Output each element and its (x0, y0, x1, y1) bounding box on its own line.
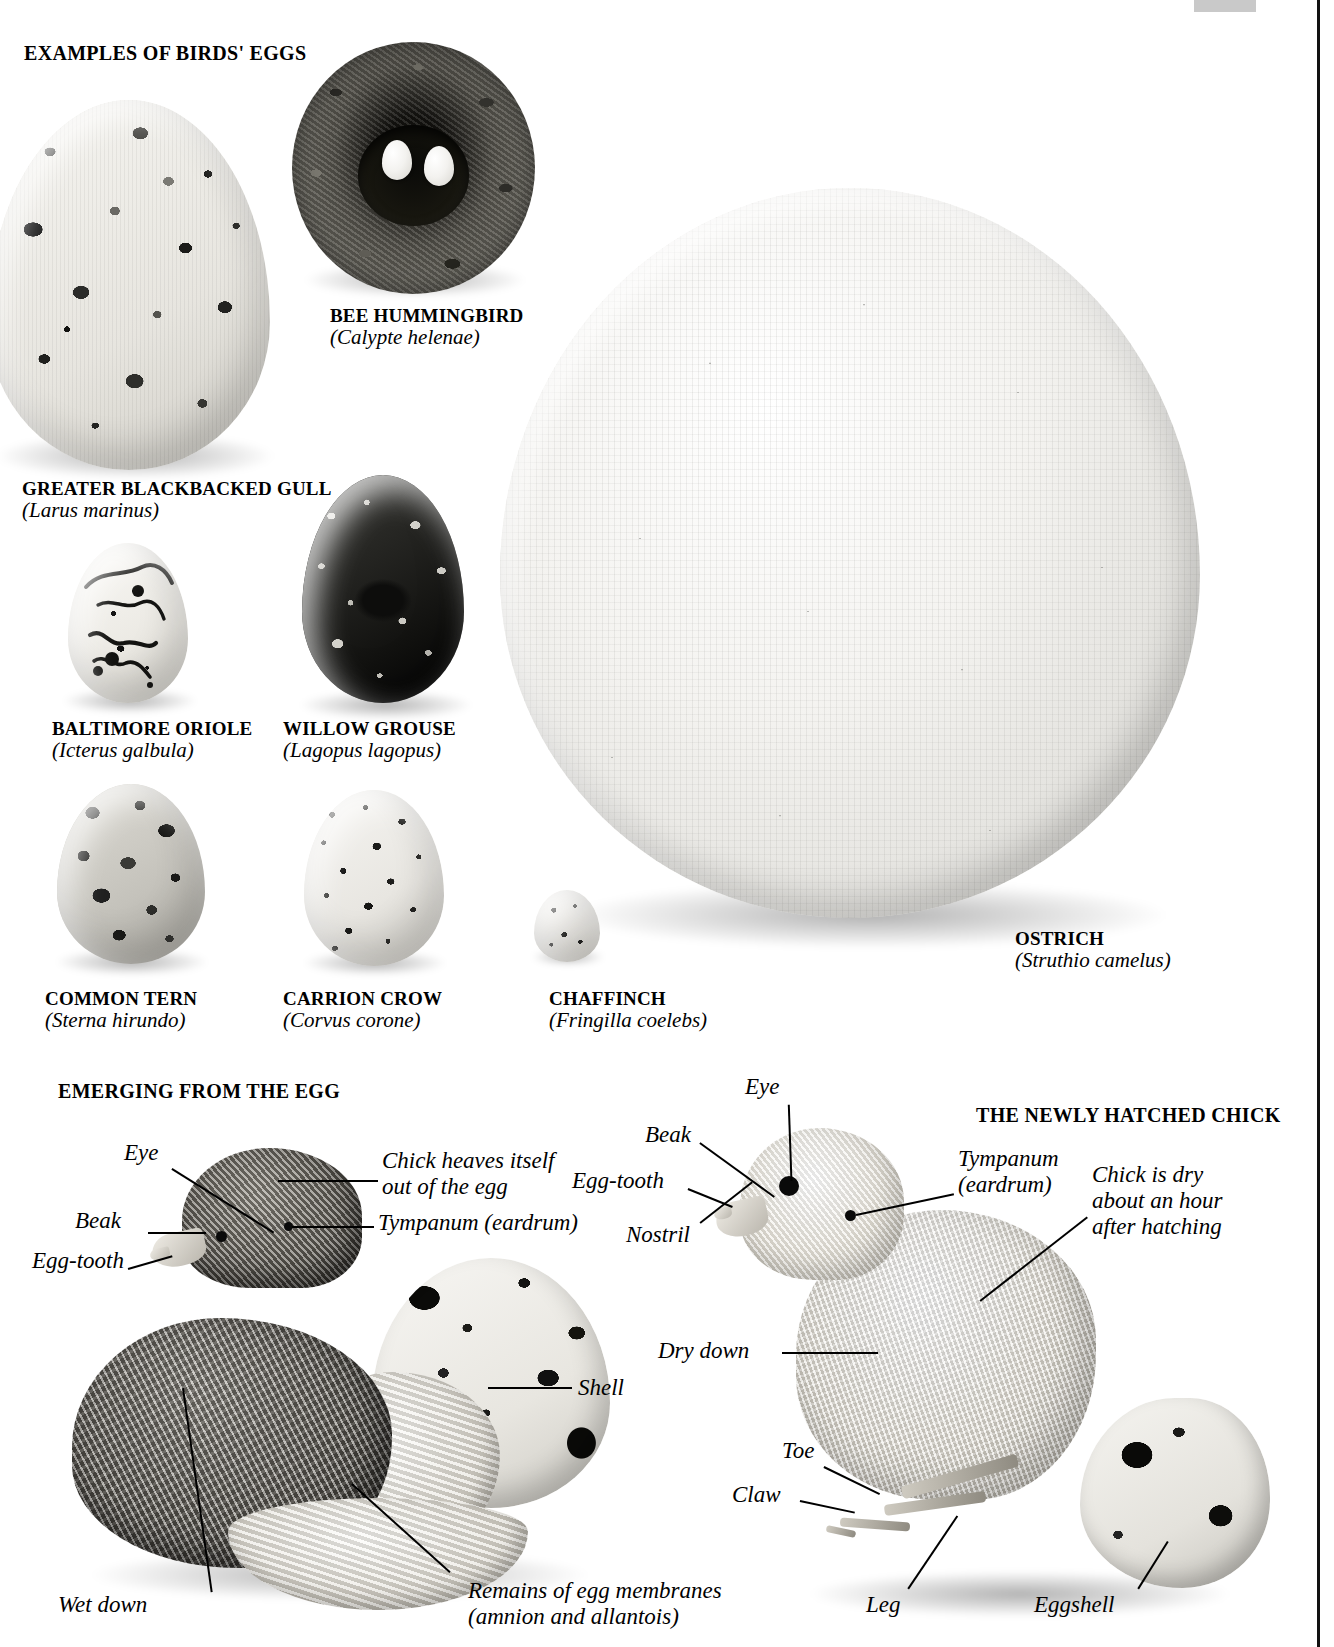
caption-bee-hummingbird: BEE HUMMINGBIRD (Calypte helenae) (330, 305, 524, 350)
top-page-marker (1194, 0, 1256, 12)
page-edge-rule (1317, 0, 1320, 1647)
caption-baltimore-oriole: BALTIMORE ORIOLE (Icterus galbula) (52, 718, 252, 763)
label-hatched-egg-tooth: Egg-tooth (572, 1168, 664, 1194)
section-title-hatched: THE NEWLY HATCHED CHICK (976, 1104, 1281, 1127)
carrion-crow-egg (304, 790, 444, 966)
caption-chaffinch: CHAFFINCH (Fringilla coelebs) (549, 988, 707, 1033)
label-hatched-dry-down: Dry down (658, 1338, 749, 1364)
label-emerging-wet-down: Wet down (58, 1592, 147, 1618)
caption-willow-grouse: WILLOW GROUSE (Lagopus lagopus) (283, 718, 456, 763)
hummingbird-egg-left (382, 140, 412, 180)
label-hatched-eggshell: Eggshell (1034, 1592, 1115, 1618)
label-emerging-membranes: Remains of egg membranes (amnion and all… (468, 1578, 722, 1630)
label-hatched-leg: Leg (866, 1592, 901, 1618)
leader-emerging-shell (488, 1387, 572, 1389)
caption-latin-name: (Fringilla coelebs) (549, 1009, 707, 1033)
label-emerging-heaves: Chick heaves itself out of the egg (382, 1148, 554, 1200)
caption-latin-name: (Icterus galbula) (52, 739, 252, 763)
label-emerging-tympanum: Tympanum (eardrum) (378, 1210, 578, 1236)
caption-common-name: COMMON TERN (45, 988, 197, 1009)
caption-common-name: CARRION CROW (283, 988, 442, 1009)
leader-emerging-heaves (278, 1180, 378, 1182)
leader-hatched-claw (800, 1500, 855, 1513)
emerging-chick-eye (216, 1231, 227, 1242)
label-emerging-beak: Beak (75, 1208, 121, 1234)
oriole-scribble-markings (68, 543, 188, 703)
hummingbird-egg-right (424, 146, 454, 186)
page-title: EXAMPLES OF BIRDS' EGGS (24, 42, 306, 65)
caption-common-name: GREATER BLACKBACKED GULL (22, 478, 332, 499)
label-emerging-eye: Eye (124, 1140, 158, 1166)
leader-hatched-dry-down (782, 1352, 878, 1354)
bee-hummingbird-nest (292, 42, 535, 294)
caption-common-name: BEE HUMMINGBIRD (330, 305, 524, 326)
caption-latin-name: (Larus marinus) (22, 499, 332, 523)
label-hatched-nostril: Nostril (626, 1222, 690, 1248)
caption-greater-blackbacked-gull: GREATER BLACKBACKED GULL (Larus marinus) (22, 478, 332, 523)
caption-carrion-crow: CARRION CROW (Corvus corone) (283, 988, 442, 1033)
label-emerging-egg-tooth: Egg-tooth (32, 1248, 124, 1274)
label-hatched-tympanum: Tympanum (eardrum) (958, 1146, 1059, 1198)
label-hatched-dry-note: Chick is dry about an hour after hatchin… (1092, 1162, 1222, 1241)
caption-latin-name: (Lagopus lagopus) (283, 739, 456, 763)
caption-common-name: WILLOW GROUSE (283, 718, 456, 739)
label-hatched-toe: Toe (782, 1438, 814, 1464)
leader-emerging-tympanum (292, 1226, 374, 1228)
label-emerging-shell: Shell (578, 1375, 624, 1401)
caption-latin-name: (Calypte helenae) (330, 326, 524, 350)
label-hatched-claw: Claw (732, 1482, 781, 1508)
caption-common-name: CHAFFINCH (549, 988, 707, 1009)
baltimore-oriole-egg (68, 543, 188, 703)
caption-common-name: OSTRICH (1015, 928, 1171, 949)
leader-emerging-beak (148, 1232, 206, 1234)
caption-latin-name: (Corvus corone) (283, 1009, 442, 1033)
hatched-chick-eye (779, 1176, 799, 1196)
leader-hatched-egg-tooth (688, 1188, 733, 1207)
caption-common-tern: COMMON TERN (Sterna hirundo) (45, 988, 197, 1033)
label-hatched-beak: Beak (645, 1122, 691, 1148)
hatched-eggshell (1080, 1398, 1270, 1588)
caption-ostrich: OSTRICH (Struthio camelus) (1015, 928, 1171, 973)
emerging-chick-head (182, 1148, 362, 1288)
ostrich-egg (500, 188, 1200, 918)
caption-latin-name: (Struthio camelus) (1015, 949, 1171, 973)
caption-latin-name: (Sterna hirundo) (45, 1009, 197, 1033)
caption-common-name: BALTIMORE ORIOLE (52, 718, 252, 739)
common-tern-egg (57, 784, 205, 964)
page-root: EXAMPLES OF BIRDS' EGGS GREATER BLACKBAC… (0, 0, 1334, 1647)
greater-blackbacked-gull-egg (0, 100, 270, 470)
hatched-chick-tympanum (845, 1210, 856, 1221)
section-title-emerging: EMERGING FROM THE EGG (58, 1080, 340, 1103)
label-hatched-eye: Eye (745, 1074, 779, 1100)
